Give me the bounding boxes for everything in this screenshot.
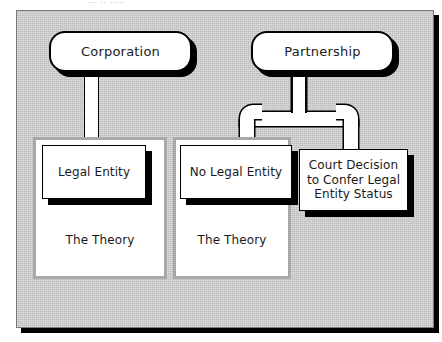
court-decision-node[interactable]: Court Decision to Confer Legal Entity St…	[299, 149, 408, 211]
legal-entity-node[interactable]: Legal Entity	[42, 145, 146, 199]
legal-entity-node-label: Legal Entity	[58, 165, 130, 180]
court-decision-line-3: Entity Status	[314, 187, 392, 202]
court-decision-line-1: Court Decision	[309, 158, 398, 173]
top-caption-text: ··· ·· ·····	[88, 0, 208, 7]
no-legal-entity-node-label: No Legal Entity	[190, 165, 283, 180]
group-middle-caption: The Theory	[173, 233, 291, 247]
no-legal-entity-node[interactable]: No Legal Entity	[180, 145, 292, 199]
group-left-caption: The Theory	[33, 233, 167, 247]
corporation-node-label: Corporation	[81, 44, 160, 59]
court-decision-line-2: to Confer Legal	[307, 173, 400, 188]
partnership-node[interactable]: Partnership	[251, 31, 394, 72]
diagram-canvas: Corporation Partnership Legal Entity The…	[16, 10, 434, 328]
partnership-node-label: Partnership	[284, 44, 360, 59]
corporation-node[interactable]: Corporation	[49, 31, 192, 72]
